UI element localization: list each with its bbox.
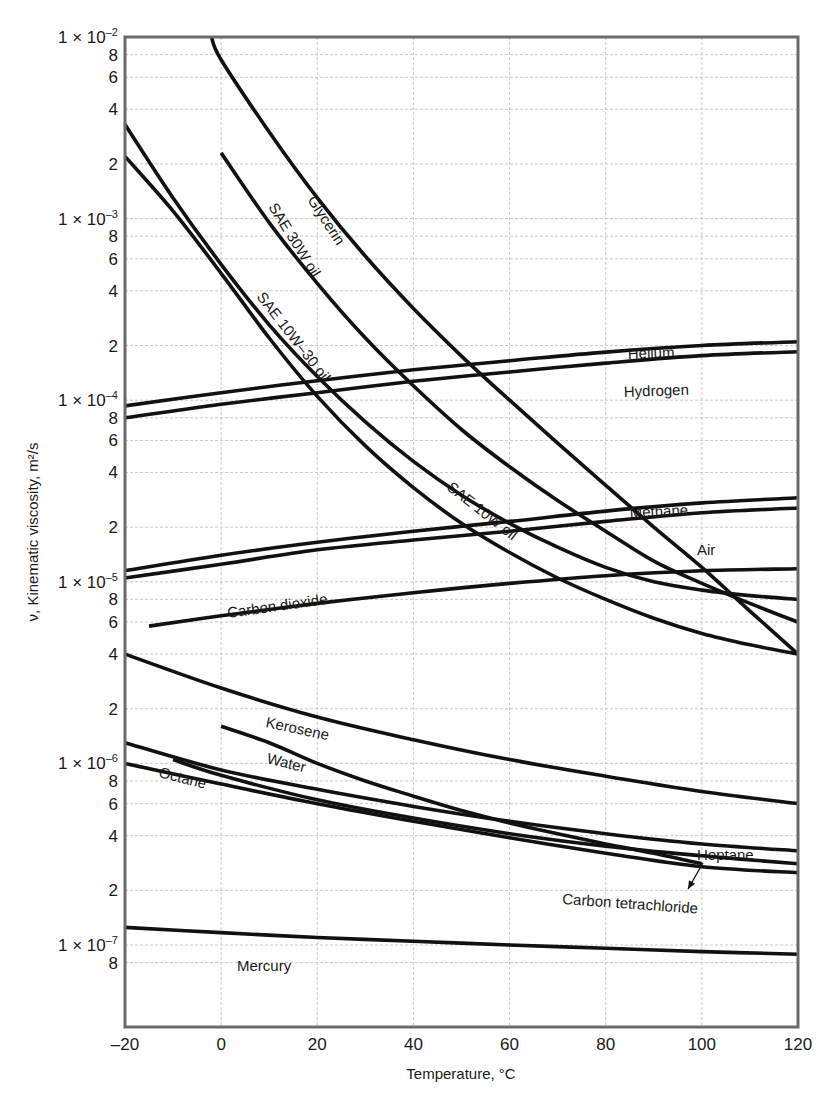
curve-label-carbon-dioxide: Carbon dioxide — [226, 590, 328, 621]
y-tick-label: 8 — [109, 590, 118, 609]
plot-frame — [125, 37, 798, 1027]
x-tick-label: 100 — [688, 1035, 716, 1054]
y-tick-label: 1 × 10–7 — [58, 934, 118, 955]
y-tick-label: 4 — [109, 463, 118, 482]
kinematic-viscosity-chart: GlycerinSAE 30W oilSAE 10W–30 oilSAE 10W… — [0, 0, 833, 1099]
curve-hydrogen — [125, 352, 798, 418]
y-tick-label: 1 × 10–5 — [58, 571, 118, 592]
y-tick-label: 1 × 10–2 — [58, 26, 118, 47]
y-tick-label: 2 — [109, 518, 118, 537]
y-tick-label: 8 — [109, 954, 118, 973]
x-tick-label: 120 — [784, 1035, 812, 1054]
y-tick-label: 2 — [109, 881, 118, 900]
curve-label-mercury: Mercury — [237, 957, 292, 974]
x-tick-label: 20 — [308, 1035, 327, 1054]
curve-label-methane: Methane — [629, 501, 688, 521]
x-axis-title: Temperature, °C — [406, 1065, 516, 1082]
curve-label-helium: Helium — [628, 343, 675, 362]
x-tick-label: 80 — [596, 1035, 615, 1054]
y-tick-label: 6 — [109, 68, 118, 87]
curve-label-water: Water — [265, 749, 307, 775]
y-tick-label: 1 × 10–4 — [58, 389, 118, 410]
y-tick-label: 4 — [109, 100, 118, 119]
y-tick-label: 6 — [109, 613, 118, 632]
curve-helium — [125, 342, 798, 406]
y-tick-label: 8 — [109, 772, 118, 791]
curve-mercury — [125, 927, 798, 954]
y-axis-title: ν, Kinematic viscosity, m²/s — [24, 443, 41, 622]
y-tick-label: 2 — [109, 155, 118, 174]
x-tick-label: –20 — [111, 1035, 139, 1054]
y-tick-label: 8 — [109, 409, 118, 428]
y-tick-label: 6 — [109, 431, 118, 450]
curve-octane — [125, 743, 798, 851]
y-tick-label: 6 — [109, 795, 118, 814]
x-tick-label: 0 — [216, 1035, 225, 1054]
y-tick-label: 2 — [109, 700, 118, 719]
curve-sae-10w-30-oil — [125, 124, 798, 599]
x-axis-tick-labels: –20020406080100120 — [111, 1035, 812, 1054]
grid-lines — [125, 37, 798, 1027]
x-tick-label: 60 — [500, 1035, 519, 1054]
y-tick-label: 1 × 10–6 — [58, 752, 118, 773]
curve-label-glycerin: Glycerin — [304, 192, 348, 247]
x-tick-label: 40 — [404, 1035, 423, 1054]
y-tick-label: 6 — [109, 250, 118, 269]
y-tick-label: 4 — [109, 282, 118, 301]
curve-label-air: Air — [697, 541, 715, 558]
y-tick-label: 4 — [109, 645, 118, 664]
y-axis-tick-labels: 1 × 10–286421 × 10–386421 × 10–486421 × … — [58, 26, 118, 973]
y-tick-label: 8 — [109, 46, 118, 65]
y-tick-label: 8 — [109, 227, 118, 246]
y-tick-label: 1 × 10–3 — [58, 208, 118, 229]
y-tick-label: 2 — [109, 337, 118, 356]
curve-label-hydrogen: Hydrogen — [624, 381, 690, 400]
curve-label-carbon-tetrachloride: Carbon tetrachloride — [562, 890, 699, 916]
y-tick-label: 4 — [109, 827, 118, 846]
curve-label-heptane: Heptane — [697, 846, 754, 863]
